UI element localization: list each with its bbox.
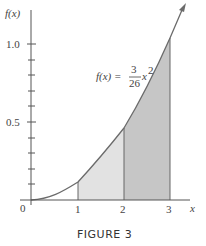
chart: f(x) 1.0 0.5 0 1 2 3 x f(x) = 3 26 x 2 F…: [0, 0, 206, 246]
origin-label: 0: [20, 202, 26, 214]
function-label-lhs: f(x) =: [96, 70, 121, 83]
figure-caption: FIGURE 3: [77, 228, 132, 241]
y-tick-label-05: 0.5: [6, 116, 20, 128]
x-tick-label-1: 1: [75, 203, 81, 215]
y-tick-label-1: 1.0: [6, 38, 20, 50]
shaded-region-1-2: [78, 128, 124, 200]
y-axis-label: f(x): [5, 7, 21, 20]
function-label-numerator: 3: [131, 63, 137, 75]
x-tick-label-3: 3: [166, 203, 172, 215]
function-label-variable: x: [141, 70, 147, 82]
x-axis-label: x: [189, 202, 195, 214]
function-label-denominator: 26: [129, 77, 141, 89]
curve-arrow-icon: [179, 3, 186, 12]
function-label-exponent: 2: [148, 64, 154, 76]
x-tick-label-2: 2: [120, 203, 126, 215]
